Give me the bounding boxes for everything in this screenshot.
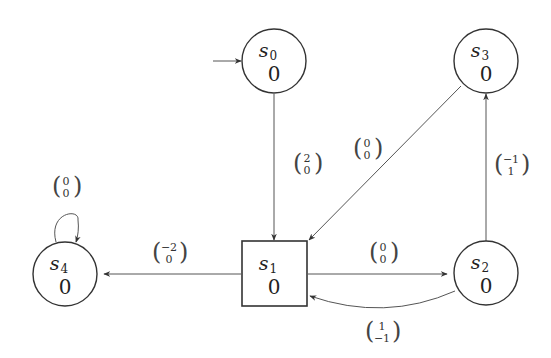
svg-text:(: ( — [353, 134, 362, 162]
svg-text:0: 0 — [166, 253, 173, 266]
state-s2: s2 0 — [454, 241, 518, 305]
svg-text:0: 0 — [268, 275, 281, 299]
svg-text:): ) — [374, 134, 383, 162]
state-s1: s1 0 — [242, 241, 307, 306]
svg-text:): ) — [314, 149, 323, 177]
state-diagram: ( 2 0 ) ( 0 0 ) ( −2 0 ) ( 0 0 ) ( −1 1 … — [0, 0, 551, 358]
svg-text:): ) — [392, 317, 401, 345]
svg-text:): ) — [73, 172, 82, 200]
edge-label-s1-s2: ( 0 0 ) — [369, 238, 399, 266]
state-s4: s4 0 — [33, 242, 97, 306]
svg-text:0: 0 — [59, 275, 72, 299]
svg-text:−1: −1 — [374, 332, 390, 345]
svg-text:(: ( — [369, 238, 378, 266]
svg-text:1: 1 — [508, 165, 515, 178]
edge-label-s1-s4: ( −2 0 ) — [152, 238, 188, 266]
edge-label-s2-s3: ( −1 1 ) — [494, 150, 530, 178]
svg-text:): ) — [179, 238, 188, 266]
svg-text:(: ( — [293, 149, 302, 177]
edge-label-s0-s1: ( 2 0 ) — [293, 149, 323, 177]
svg-text:): ) — [390, 238, 399, 266]
svg-text:): ) — [521, 150, 530, 178]
edge-label-s3-s1: ( 0 0 ) — [353, 134, 383, 162]
svg-text:0: 0 — [63, 187, 70, 200]
svg-text:0: 0 — [380, 253, 387, 266]
edge-label-s2-s1: ( 1 −1 ) — [365, 317, 401, 345]
state-s3: s3 0 — [454, 29, 518, 93]
svg-text:0: 0 — [364, 149, 371, 162]
svg-text:(: ( — [52, 172, 61, 200]
svg-text:0: 0 — [304, 164, 311, 177]
edge-s3-s1 — [309, 86, 461, 240]
state-s0: s0 0 — [242, 29, 306, 93]
edge-s4-s4-loop — [55, 214, 79, 242]
svg-text:0: 0 — [480, 274, 493, 298]
edge-label-s4-loop: ( 0 0 ) — [52, 172, 82, 200]
svg-text:0: 0 — [480, 62, 493, 86]
edge-s2-s1 — [310, 291, 455, 308]
svg-text:0: 0 — [268, 62, 281, 86]
